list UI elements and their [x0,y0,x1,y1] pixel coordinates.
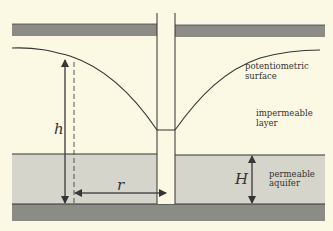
impermeable-layer-label: impermeable [256,108,313,118]
H-label: H [234,170,249,188]
aquifer-diagram: potentiometric surface impermeable layer… [0,0,333,231]
potentiometric-surface-curve [12,48,157,130]
permeable-aquifer-label-2: aquifer [269,178,301,188]
potentiometric-surface-label-2: surface [245,71,277,81]
potentiometric-surface-label: potentiometric [245,61,309,71]
top-confining-band [12,24,325,37]
h-label: h [54,120,64,138]
well-casing [157,13,175,204]
r-label: r [117,176,125,194]
impermeable-layer-label-2: layer [256,118,279,128]
base-impermeable-band [12,204,325,221]
